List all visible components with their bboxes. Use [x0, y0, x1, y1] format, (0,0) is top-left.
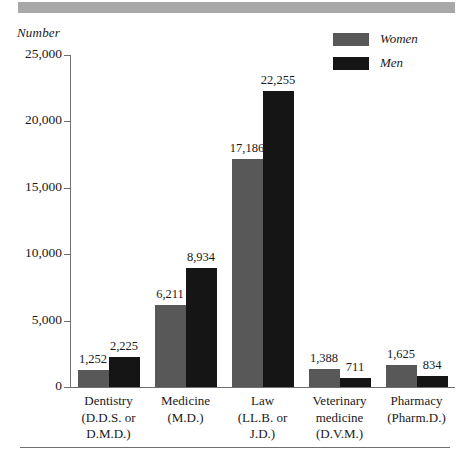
bar-men	[263, 91, 294, 387]
category-label-line: (D.V.M.)	[294, 426, 385, 443]
y-axis-tick	[64, 387, 70, 388]
y-axis-tick-label: 25,000	[6, 46, 62, 62]
bar-men	[417, 376, 448, 387]
bar-value-label: 834	[403, 358, 461, 373]
bottom-rule	[20, 447, 450, 448]
bar-women	[78, 370, 109, 387]
bar-value-label: 17,186	[218, 141, 276, 156]
bar-chart-figure: Number Women Men 05,00010,00015,00020,00…	[0, 0, 469, 467]
y-axis-tick	[64, 254, 70, 255]
bar-value-label: 1,252	[64, 352, 122, 367]
y-axis-tick-label: 20,000	[6, 112, 62, 128]
x-axis-category-label: Pharmacy(Pharm.D.)	[371, 393, 462, 426]
y-axis-tick	[64, 188, 70, 189]
y-axis-tick	[64, 121, 70, 122]
legend-swatch-women-icon	[333, 33, 369, 46]
category-label-line: Pharmacy	[371, 393, 462, 410]
y-axis-title: Number	[17, 25, 60, 41]
y-axis-tick-label: 0	[6, 378, 62, 394]
y-axis-tick-label: 5,000	[6, 312, 62, 328]
legend-label-women: Women	[380, 31, 418, 47]
bar-value-label: 8,934	[172, 250, 230, 265]
bar-value-label: 22,255	[249, 73, 307, 88]
x-axis-line	[70, 387, 455, 388]
bar-value-label: 6,211	[141, 287, 199, 302]
y-axis-tick	[64, 55, 70, 56]
y-axis-tick	[64, 321, 70, 322]
bar-value-label: 2,225	[95, 339, 153, 354]
bar-women	[232, 159, 263, 387]
y-axis-line	[70, 55, 71, 387]
category-label-line: (Pharm.D.)	[371, 410, 462, 427]
plot-area	[70, 55, 455, 387]
bar-men	[340, 378, 371, 387]
y-axis-tick-label: 15,000	[6, 179, 62, 195]
y-axis-tick-label: 10,000	[6, 245, 62, 261]
bar-women	[155, 305, 186, 387]
category-label-line: D.M.D.)	[63, 426, 154, 443]
top-decorative-band	[18, 2, 455, 13]
